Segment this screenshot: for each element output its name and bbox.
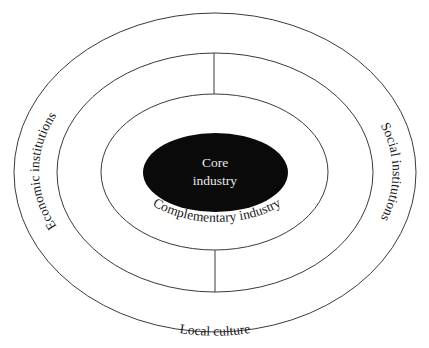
core-label-line2: industry	[193, 173, 238, 188]
social-institutions-label: Social institutions	[378, 120, 405, 224]
local-culture-text: Local culture	[179, 321, 251, 339]
core-label-line1: Core	[202, 155, 228, 170]
economic-institutions-text: Economic institutions	[27, 109, 59, 233]
local-culture-label: Local culture	[179, 321, 251, 339]
social-institutions-text: Social institutions	[378, 120, 405, 224]
economic-institutions-label: Economic institutions	[27, 109, 59, 233]
concentric-diagram: Core industry Complementary industry Eco…	[0, 0, 429, 348]
diagram-canvas: Core industry Complementary industry Eco…	[0, 0, 429, 348]
